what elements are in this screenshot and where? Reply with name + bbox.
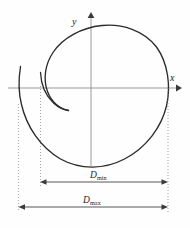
- d-min-symbol: D: [90, 170, 97, 180]
- figure-canvas: [0, 0, 190, 228]
- dimension-label-d-min: Dmin: [90, 171, 107, 181]
- spiral-curves: [19, 25, 168, 167]
- spiral-diagram-figure: y x Dmin Dmax: [0, 0, 190, 228]
- d-max-symbol: D: [83, 195, 90, 205]
- coordinate-axes: [8, 12, 182, 166]
- d-max-arrowhead-right: [162, 204, 169, 210]
- d-min-subscript: min: [97, 174, 107, 181]
- y-axis-label: y: [72, 17, 76, 27]
- projection-guides: [18, 86, 168, 212]
- outer-spiral-curve: [19, 25, 168, 167]
- d-min-arrowhead-right: [162, 179, 169, 185]
- x-axis-arrowhead: [176, 85, 182, 92]
- d-max-arrowhead-left: [18, 204, 25, 210]
- y-axis-arrowhead: [88, 12, 95, 18]
- d-max-subscript: max: [90, 199, 101, 206]
- d-min-arrowhead-left: [40, 179, 47, 185]
- dimension-label-d-max: Dmax: [83, 196, 101, 206]
- x-axis-label: x: [170, 73, 174, 83]
